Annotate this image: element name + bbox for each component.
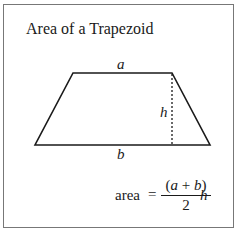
top-base-label: a <box>117 56 125 73</box>
trapezoid-shape <box>35 73 210 145</box>
height-label: h <box>160 104 168 121</box>
bottom-base-label: b <box>117 146 125 163</box>
formula-equals: = <box>148 186 156 203</box>
numerator-plus: + <box>178 177 194 193</box>
numerator-a: a <box>171 177 179 193</box>
formula-lhs: area <box>115 187 140 204</box>
formula-multiplier: h <box>200 187 208 204</box>
